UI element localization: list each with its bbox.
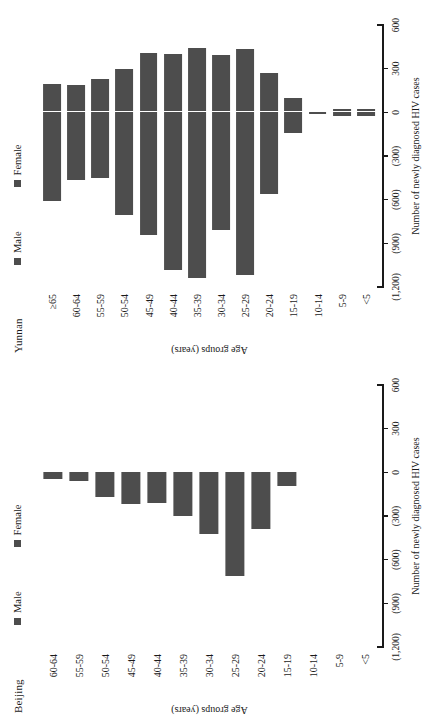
category-label: 10-14 bbox=[312, 294, 323, 317]
bar-row: 60-64 bbox=[40, 385, 66, 647]
bar-row: 30-34 bbox=[209, 25, 233, 287]
x-tick-label: (300) bbox=[391, 506, 401, 527]
plot-area-beijing: 60-6455-5950-5445-4940-4435-3930-3425-29… bbox=[40, 385, 378, 647]
x-axis-tick bbox=[377, 646, 384, 648]
bar-female[interactable] bbox=[116, 69, 134, 113]
bar-male[interactable] bbox=[309, 112, 327, 114]
bar-male[interactable] bbox=[277, 472, 296, 486]
legend-label-male: Male bbox=[12, 231, 23, 253]
bar-male[interactable] bbox=[357, 112, 375, 115]
x-axis-beijing bbox=[382, 385, 384, 647]
bar-row: 25-29 bbox=[222, 385, 248, 647]
x-axis-tick bbox=[382, 243, 388, 245]
category-label: 25-29 bbox=[240, 294, 251, 317]
bar-male[interactable] bbox=[199, 472, 218, 533]
bar-female[interactable] bbox=[188, 48, 206, 113]
bar-row: 5-9 bbox=[330, 25, 354, 287]
legend-entry-male[interactable]: Male bbox=[12, 591, 23, 625]
x-axis-tick bbox=[377, 24, 384, 26]
bar-male[interactable] bbox=[164, 112, 182, 269]
category-label: 35-39 bbox=[178, 654, 189, 677]
bar-row: 15-19 bbox=[274, 385, 300, 647]
bar-male[interactable] bbox=[140, 112, 158, 234]
x-tick-labels-yunnan: (1,200)(900)(600)(300)0300600 bbox=[391, 25, 405, 287]
x-tick-label: (300) bbox=[391, 146, 401, 167]
category-label: 10-14 bbox=[308, 654, 319, 677]
bar-female[interactable] bbox=[43, 84, 61, 113]
bar-male[interactable] bbox=[236, 112, 254, 275]
x-axis-tick bbox=[382, 68, 388, 70]
figure: Beijing Male Female Age groups (years) 6… bbox=[0, 0, 444, 725]
x-tick-label: (900) bbox=[391, 593, 401, 614]
bar-male[interactable] bbox=[91, 112, 109, 178]
bar-row: <5 bbox=[352, 385, 378, 647]
bar-male[interactable] bbox=[69, 472, 88, 481]
bar-male[interactable] bbox=[173, 472, 192, 516]
bar-female[interactable] bbox=[91, 79, 109, 112]
category-label: <5 bbox=[360, 654, 371, 665]
legend-swatch-female-icon bbox=[14, 540, 21, 547]
bar-female[interactable] bbox=[140, 53, 158, 113]
bar-row: 40-44 bbox=[161, 25, 185, 287]
x-axis-tick bbox=[382, 603, 388, 605]
bar-male[interactable] bbox=[212, 112, 230, 230]
x-axis-title-yunnan: Number of newly diagnosed HIV cases bbox=[410, 25, 421, 287]
bar-male[interactable] bbox=[121, 472, 140, 504]
bar-male[interactable] bbox=[225, 472, 244, 576]
plot-area-yunnan: ≥6560-6455-5950-5445-4940-4435-3930-3425… bbox=[40, 25, 378, 287]
bar-male[interactable] bbox=[260, 112, 278, 194]
x-tick-label: 600 bbox=[391, 18, 401, 32]
bar-row: 40-44 bbox=[144, 385, 170, 647]
category-label: 45-49 bbox=[126, 654, 137, 677]
x-axis-tick bbox=[377, 384, 384, 386]
bar-male[interactable] bbox=[116, 112, 134, 215]
bar-female[interactable] bbox=[164, 54, 182, 113]
category-label: <5 bbox=[360, 294, 371, 305]
panel-title-yunnan: Yunnan bbox=[12, 318, 24, 353]
x-axis-tick bbox=[382, 155, 388, 157]
bar-female[interactable] bbox=[260, 73, 278, 112]
bar-row: 50-54 bbox=[92, 385, 118, 647]
x-axis-tick bbox=[382, 559, 388, 561]
category-label: 5-9 bbox=[334, 654, 345, 667]
category-label: 55-59 bbox=[74, 654, 85, 677]
bar-female[interactable] bbox=[67, 85, 85, 112]
bar-female[interactable] bbox=[285, 98, 303, 113]
x-axis-tick bbox=[382, 515, 388, 517]
bar-male[interactable] bbox=[43, 472, 62, 479]
legend-swatch-female-icon bbox=[14, 180, 21, 187]
bar-row: 20-24 bbox=[257, 25, 281, 287]
bar-male[interactable] bbox=[67, 112, 85, 180]
bar-male[interactable] bbox=[251, 472, 270, 528]
bar-row: 20-24 bbox=[248, 385, 274, 647]
category-label: 15-19 bbox=[288, 294, 299, 317]
x-tick-label: 0 bbox=[391, 470, 401, 475]
category-label: 35-39 bbox=[191, 294, 202, 317]
y-axis-title-beijing: Age groups (years) bbox=[40, 703, 378, 719]
x-tick-label: (600) bbox=[391, 189, 401, 210]
legend-entry-male[interactable]: Male bbox=[12, 231, 23, 265]
bar-female[interactable] bbox=[212, 55, 230, 112]
category-label: 60-64 bbox=[71, 294, 82, 317]
bar-row: 60-64 bbox=[64, 25, 88, 287]
bar-male[interactable] bbox=[333, 112, 351, 115]
panel-yunnan: Yunnan Male Female Age groups (years) ≥6… bbox=[0, 3, 444, 361]
legend-entry-female[interactable]: Female bbox=[12, 505, 23, 548]
x-axis-tick bbox=[382, 428, 388, 430]
bar-male[interactable] bbox=[43, 112, 61, 201]
category-label: 60-64 bbox=[48, 654, 59, 677]
bar-row: 55-59 bbox=[66, 385, 92, 647]
bar-male[interactable] bbox=[95, 472, 114, 496]
legend-entry-female[interactable]: Female bbox=[12, 145, 23, 188]
bar-row: 45-49 bbox=[118, 385, 144, 647]
category-label: 20-24 bbox=[256, 654, 267, 677]
bar-female[interactable] bbox=[236, 49, 254, 112]
category-label: 30-34 bbox=[204, 654, 215, 677]
legend-beijing: Male Female bbox=[12, 505, 23, 625]
bar-male[interactable] bbox=[285, 112, 303, 133]
legend-label-male: Male bbox=[12, 591, 23, 613]
bar-male[interactable] bbox=[147, 472, 166, 502]
bar-male[interactable] bbox=[188, 112, 206, 278]
bar-row: 15-19 bbox=[281, 25, 305, 287]
category-label: 15-19 bbox=[282, 654, 293, 677]
